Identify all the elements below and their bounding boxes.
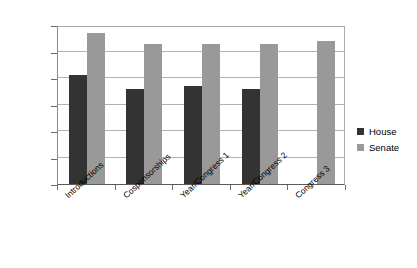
legend-item-senate[interactable]: Senate [357,139,399,155]
bar-senate-4 [317,41,335,184]
bar-house-3 [242,89,260,184]
legend-label: House [369,126,396,137]
bar-chart: % of Acts Devoted to Promise Keeping 010… [0,0,417,268]
legend-swatch-icon [357,128,364,135]
bar-house-1 [126,89,144,184]
bar-house-0 [69,75,87,184]
x-tick-mark [345,185,346,190]
x-tick-mark [287,185,288,190]
legend-swatch-icon [357,144,364,151]
legend-label: Senate [369,142,399,153]
x-tick-mark [57,185,58,190]
x-tick-mark [172,185,173,190]
chart-legend: HouseSenate [357,123,399,155]
x-tick-mark [230,185,231,190]
x-tick-mark [115,185,116,190]
bar-house-2 [184,86,202,184]
legend-item-house[interactable]: House [357,123,399,139]
